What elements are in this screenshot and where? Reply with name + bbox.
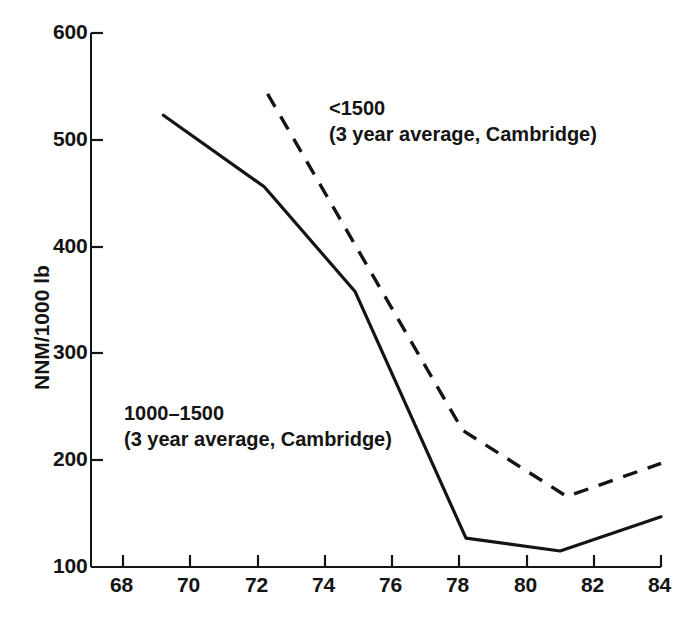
x-tick-label-70: 70 (177, 573, 200, 597)
x-tick-label-72: 72 (245, 573, 268, 597)
y-tick-label-400: 400 (53, 234, 87, 258)
y-axis-ticks (91, 33, 103, 460)
x-tick-label-76: 76 (379, 573, 402, 597)
annotation-1000-1500-line1: 1000–1500 (124, 402, 224, 424)
y-tick-label-500: 500 (53, 127, 87, 151)
chart-figure: NNM/1000 lb 600 500 400 300 200 100 68 7… (0, 0, 692, 619)
x-tick-label-78: 78 (446, 573, 469, 597)
annotation-under-1500-line2: (3 year average, Cambridge) (329, 121, 597, 147)
series-annotation-1000-1500: 1000–1500 (3 year average, Cambridge) (124, 400, 392, 452)
y-axis-title: NNM/1000 lb (30, 265, 54, 390)
annotation-1000-1500-line2: (3 year average, Cambridge) (124, 426, 392, 452)
series-line-1000-1500 (163, 115, 661, 551)
x-tick-label-84: 84 (648, 573, 671, 597)
annotation-under-1500-line1: <1500 (329, 97, 385, 119)
series-annotation-under-1500: <1500 (3 year average, Cambridge) (329, 95, 597, 147)
chart-canvas (0, 0, 692, 619)
y-tick-label-200: 200 (53, 447, 87, 471)
y-tick-label-100: 100 (53, 554, 87, 578)
x-tick-label-68: 68 (110, 573, 133, 597)
x-tick-label-80: 80 (514, 573, 537, 597)
x-tick-label-74: 74 (312, 573, 335, 597)
y-tick-label-300: 300 (53, 340, 87, 364)
x-tick-label-82: 82 (581, 573, 604, 597)
y-tick-label-600: 600 (53, 20, 87, 44)
x-axis-ticks (123, 555, 661, 567)
